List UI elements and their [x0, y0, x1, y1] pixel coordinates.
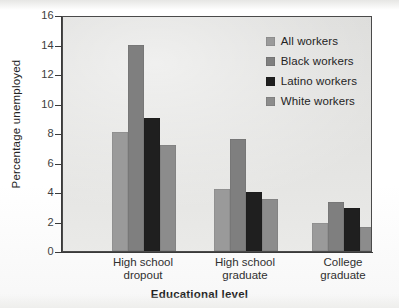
y-axis-tick: [55, 252, 62, 253]
legend-item: All workers: [266, 31, 357, 51]
y-axis-tick-label: 14: [8, 40, 54, 51]
category-label-line: graduate: [283, 269, 399, 282]
bar-chart-figure: Percentage unemployed 0246810121416 All …: [0, 0, 399, 308]
bar: [214, 189, 230, 251]
legend-swatch-icon: [266, 37, 275, 46]
bar: [246, 192, 262, 251]
y-axis-tick-label: 0: [8, 246, 54, 257]
y-axis-tick: [55, 16, 62, 17]
y-axis-tick: [55, 134, 62, 135]
bar: [160, 145, 176, 251]
y-axis-tick: [55, 193, 62, 194]
legend-item-label: White workers: [281, 95, 355, 107]
y-axis-tick-label: 16: [8, 10, 54, 21]
bar: [262, 199, 278, 251]
bar: [328, 202, 344, 251]
y-axis-tick: [55, 75, 62, 76]
y-axis-tick: [55, 105, 62, 106]
legend-item: White workers: [266, 91, 357, 111]
bar: [112, 132, 128, 251]
legend-item: Black workers: [266, 51, 357, 71]
bar: [344, 208, 360, 251]
plot-area: All workersBlack workersLatino workersWh…: [62, 16, 372, 252]
y-axis-tick-label: 4: [8, 187, 54, 198]
legend-item-label: Black workers: [281, 55, 354, 67]
legend-swatch-icon: [266, 97, 275, 106]
legend-item: Latino workers: [266, 71, 357, 91]
legend-item-label: Latino workers: [281, 75, 357, 87]
legend-item-label: All workers: [281, 35, 338, 47]
legend: All workersBlack workersLatino workersWh…: [266, 31, 357, 111]
category-label-line: College: [283, 256, 399, 269]
y-axis-tick-label: 10: [8, 99, 54, 110]
y-axis-tick: [55, 223, 62, 224]
legend-swatch-icon: [266, 57, 275, 66]
y-axis-tick: [55, 46, 62, 47]
bar: [128, 45, 144, 252]
y-axis-tick-label: 12: [8, 69, 54, 80]
bar: [230, 139, 246, 251]
y-axis-tick-label: 6: [8, 158, 54, 169]
x-axis-line: [62, 252, 373, 253]
y-axis-tick: [55, 164, 62, 165]
bar: [360, 227, 372, 251]
bar: [312, 223, 328, 251]
x-axis-title: Educational level: [0, 288, 399, 300]
x-axis-category-label: Collegegraduate: [283, 256, 399, 282]
y-axis-tick-label: 2: [8, 217, 54, 228]
bar: [144, 118, 160, 251]
y-axis-tick-label: 8: [8, 128, 54, 139]
legend-swatch-icon: [266, 77, 275, 86]
